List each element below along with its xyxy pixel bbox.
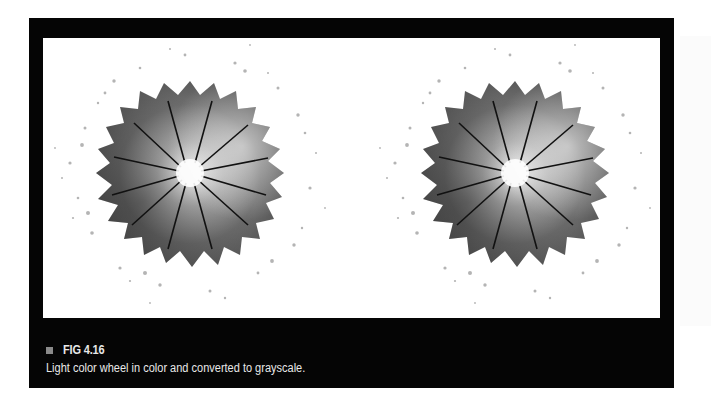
color-wheels-illustration [43, 38, 660, 318]
figure-number: FIG 4.16 [63, 343, 104, 357]
figure-marker-square-icon [46, 347, 53, 354]
figure-frame: FIG 4.16 Light color wheel in color and … [29, 18, 674, 388]
color-wheel-grayscale [379, 44, 651, 304]
figure-caption: FIG 4.16 Light color wheel in color and … [46, 342, 341, 375]
figure-image-area [43, 38, 660, 318]
figure-caption-text: Light color wheel in color and converted… [46, 361, 305, 375]
adjacent-page-edge [680, 36, 711, 326]
color-wheel-original [54, 44, 326, 304]
